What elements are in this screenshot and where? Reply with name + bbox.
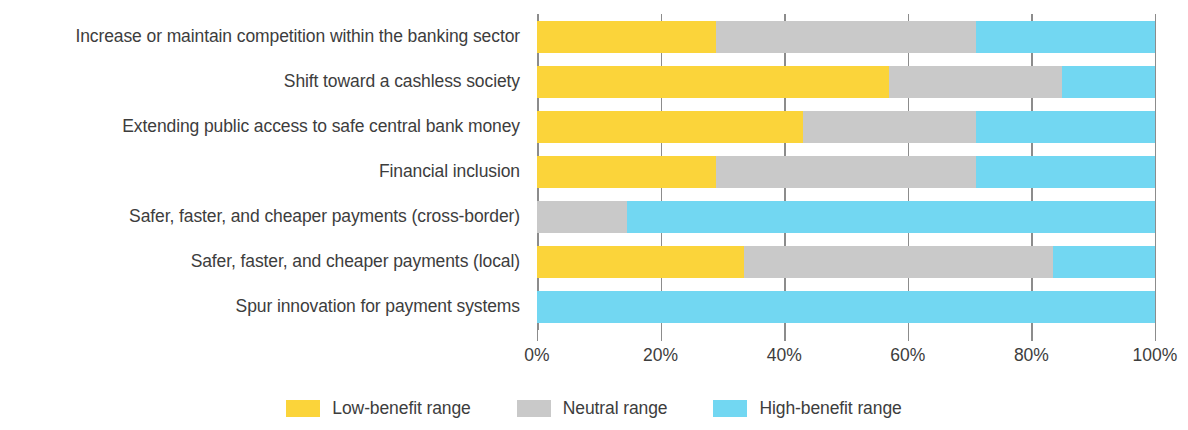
category-label: Financial inclusion [0,163,520,181]
x-tick-label: 20% [643,345,678,366]
x-tick-80 [1031,330,1032,341]
bar-segment-high-benefit [976,21,1155,53]
legend-swatch-neutral [517,400,551,417]
bar-segment-low-benefit [537,21,716,53]
category-label: Safer, faster, and cheaper payments (loc… [0,253,520,271]
bar-segment-neutral [716,21,976,53]
x-axis: 0%20%40%60%80%100% [537,330,1155,376]
legend-item[interactable]: High-benefit range [713,398,901,419]
legend-label: High-benefit range [759,398,901,419]
bar-row [537,21,1155,53]
bar-segment-low-benefit [537,111,803,143]
bar-segment-neutral [716,156,976,188]
stacked-bar-chart: Increase or maintain competition within … [0,0,1188,430]
x-tick-0 [537,330,538,341]
category-label: Spur innovation for payment systems [0,298,520,316]
legend-swatch-low-benefit [286,400,320,417]
bar-segment-low-benefit [537,66,889,98]
bar-row [537,201,1155,233]
bar-segment-neutral [537,201,627,233]
bar-segment-neutral [803,111,976,143]
bar-row [537,66,1155,98]
bar-row [537,291,1155,323]
x-tick-label: 60% [890,345,925,366]
legend-label: Neutral range [563,398,668,419]
bar-segment-high-benefit [976,156,1155,188]
x-tick-label: 0% [524,345,549,366]
bar-segment-high-benefit [1053,246,1155,278]
category-label: Shift toward a cashless society [0,73,520,91]
bar-segment-neutral [744,246,1053,278]
bar-row [537,156,1155,188]
bar-segment-high-benefit [976,111,1155,143]
bar-segment-low-benefit [537,246,744,278]
bar-segment-high-benefit [627,201,1155,233]
bar-segment-high-benefit [1062,66,1155,98]
x-tick-label: 40% [767,345,802,366]
bar-row [537,246,1155,278]
x-tick-60 [908,330,909,341]
chart-legend: Low-benefit rangeNeutral rangeHigh-benef… [0,393,1188,423]
legend-swatch-high-benefit [713,400,747,417]
legend-label: Low-benefit range [332,398,470,419]
bar-segment-low-benefit [537,156,716,188]
bar-segment-neutral [889,66,1062,98]
x-tick-label: 100% [1133,345,1178,366]
category-label: Increase or maintain competition within … [0,28,520,46]
x-tick-100 [1155,330,1156,341]
bar-row [537,111,1155,143]
plot-area [537,14,1155,330]
category-label-column: Increase or maintain competition within … [0,14,528,330]
x-tick-20 [661,330,662,341]
legend-item[interactable]: Neutral range [517,398,668,419]
category-label: Extending public access to safe central … [0,118,520,136]
x-tick-label: 80% [1014,345,1049,366]
x-tick-40 [784,330,785,341]
gridline-100 [1155,14,1156,330]
bar-segment-high-benefit [537,291,1155,323]
legend-item[interactable]: Low-benefit range [286,398,470,419]
category-label: Safer, faster, and cheaper payments (cro… [0,208,520,226]
